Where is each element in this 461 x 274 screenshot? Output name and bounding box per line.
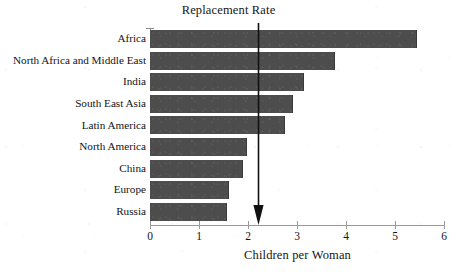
bar-category-label: Latin America: [82, 120, 150, 131]
bar[interactable]: [150, 95, 293, 113]
table-row: China: [0, 158, 461, 180]
bar[interactable]: [150, 138, 247, 156]
x-axis-tick-label: 2: [233, 231, 263, 243]
x-axis-title: Children per Woman: [150, 248, 445, 263]
bar-category-label: China: [119, 163, 150, 174]
bar[interactable]: [150, 160, 243, 178]
bar-category-label: India: [123, 77, 150, 88]
table-row: India: [0, 72, 461, 94]
bar-category-label: North Africa and Middle East: [13, 55, 150, 66]
bar[interactable]: [150, 30, 417, 48]
bar-category-label: Russia: [116, 206, 150, 217]
table-row: Europe: [0, 180, 461, 202]
x-axis-tick: [150, 221, 151, 229]
bar-category-label: Africa: [117, 34, 150, 45]
table-row: South East Asia: [0, 93, 461, 115]
bar[interactable]: [150, 73, 304, 91]
x-axis-tick: [395, 221, 396, 229]
bar[interactable]: [150, 52, 335, 70]
table-row: Africa: [0, 28, 461, 50]
table-row: Russia: [0, 201, 461, 223]
x-axis-tick-label: 6: [429, 231, 459, 243]
table-row: North Africa and Middle East: [0, 50, 461, 72]
x-axis-tick-label: 5: [380, 231, 410, 243]
x-axis-tick: [444, 221, 445, 229]
replacement-rate-arrow-icon: [252, 23, 265, 226]
x-axis-tick: [297, 221, 298, 229]
x-axis-tick: [346, 221, 347, 229]
x-axis-tick-label: 0: [135, 231, 165, 243]
bar-category-label: Europe: [114, 185, 150, 196]
x-axis-tick-label: 4: [331, 231, 361, 243]
bar[interactable]: [150, 181, 229, 199]
table-row: Latin America: [0, 115, 461, 137]
fertility-rate-bar-chart: Replacement Rate Africa North Africa and…: [0, 0, 461, 274]
x-axis-tick-label: 3: [282, 231, 312, 243]
x-axis-tick-label: 1: [184, 231, 214, 243]
bar-category-label: North America: [79, 142, 150, 153]
plot-area: Africa North Africa and Middle East Indi…: [0, 0, 461, 274]
x-axis-tick: [199, 221, 200, 229]
bar[interactable]: [150, 203, 227, 221]
x-axis-tick: [248, 221, 249, 229]
bar-category-label: South East Asia: [75, 98, 150, 109]
table-row: North America: [0, 136, 461, 158]
